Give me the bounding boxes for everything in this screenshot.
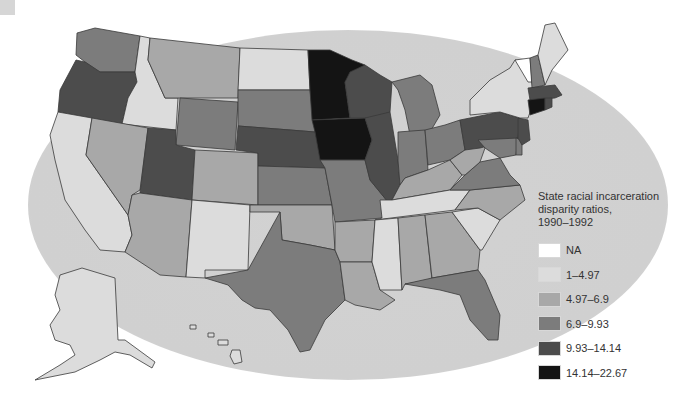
legend-swatch <box>538 243 561 258</box>
state-NM[interactable] <box>186 200 250 278</box>
state-IA[interactable] <box>312 118 372 160</box>
legend-swatch <box>538 316 561 331</box>
state-MT[interactable] <box>148 38 240 98</box>
state-HI-islands-1 <box>208 333 214 337</box>
legend-title-line: State racial incarceration <box>538 190 675 203</box>
state-RI[interactable] <box>545 98 552 110</box>
legend-item-bin-1: 1–4.97 <box>538 263 675 288</box>
state-AZ[interactable] <box>125 193 192 277</box>
legend-label: 4.97–6.9 <box>566 293 609 305</box>
state-KS[interactable] <box>258 166 332 205</box>
legend-swatch <box>538 365 561 380</box>
legend-label: 1–4.97 <box>566 269 600 281</box>
state-AR[interactable] <box>335 220 375 262</box>
state-HI[interactable] <box>230 350 242 364</box>
state-SD[interactable] <box>238 90 315 132</box>
legend-title-line: disparity ratios, <box>538 203 675 216</box>
state-MS[interactable] <box>372 218 402 290</box>
legend-item-bin-3: 6.9–9.93 <box>538 312 675 337</box>
legend-label: 9.93–14.14 <box>566 342 621 354</box>
state-WY[interactable] <box>176 98 238 150</box>
state-CT[interactable] <box>528 98 545 115</box>
legend-item-bin-5: 14.14–22.67 <box>538 361 675 386</box>
legend-title: State racial incarceration disparity rat… <box>538 190 675 229</box>
state-AK[interactable] <box>35 268 155 380</box>
legend-label: 14.14–22.67 <box>566 367 627 379</box>
legend-label: NA <box>566 244 581 256</box>
legend-item-na: NA <box>538 238 675 263</box>
state-FL[interactable] <box>405 270 500 340</box>
legend-title-line: 1990–1992 <box>538 216 675 229</box>
state-MI[interactable] <box>392 75 440 135</box>
legend-label: 6.9–9.93 <box>566 318 609 330</box>
state-HI-islands-3 <box>190 325 196 329</box>
legend: State racial incarceration disparity rat… <box>538 190 675 385</box>
state-ND[interactable] <box>238 48 310 90</box>
legend-swatch <box>538 292 561 307</box>
state-CO[interactable] <box>192 150 258 205</box>
legend-item-bin-2: 4.97–6.9 <box>538 287 675 312</box>
state-HI-islands-2 <box>218 340 228 345</box>
legend-swatch <box>538 267 561 282</box>
legend-swatch <box>538 341 561 356</box>
state-NJ[interactable] <box>518 118 530 145</box>
state-ME[interactable] <box>538 23 568 85</box>
legend-item-bin-4: 9.93–14.14 <box>538 336 675 361</box>
state-WI[interactable] <box>345 65 392 118</box>
